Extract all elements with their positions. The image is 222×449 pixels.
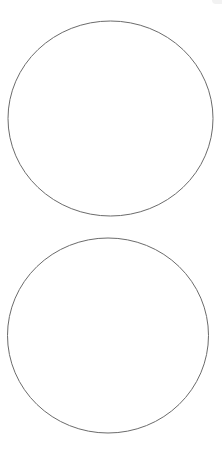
top-circle[interactable]: [8, 21, 213, 216]
drawing-canvas: [0, 0, 222, 449]
bottom-circle[interactable]: [8, 238, 209, 433]
corner-artifact: [212, 0, 222, 4]
